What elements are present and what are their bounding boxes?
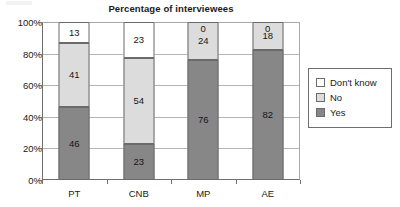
bar-value-label-zero: 0	[265, 23, 270, 34]
chart-container: Percentage of interviewees 0%20%40%60%80…	[0, 0, 400, 207]
bar-segment-yes[interactable]: 76	[188, 60, 219, 180]
bar-value-label: 24	[198, 36, 209, 46]
x-axis-tick-label: PT	[68, 188, 80, 199]
bar-value-label-zero: 0	[201, 23, 206, 34]
bar-value-label: 82	[262, 110, 273, 120]
x-axis-tick-mark	[107, 180, 108, 184]
x-axis-tick-mark	[171, 180, 172, 184]
y-axis: 0%20%40%60%80%100%	[0, 22, 42, 180]
stacked-bar[interactable]: 76240	[188, 22, 219, 180]
x-axis-tick-mark	[300, 180, 301, 184]
legend-swatch-icon	[316, 108, 325, 117]
bar-segment-no[interactable]: 41	[59, 43, 90, 108]
y-axis-tick-label: 0%	[6, 175, 42, 186]
bar-segment-don-t-know[interactable]: 13	[59, 22, 90, 43]
bar-group-pt[interactable]: 464113	[42, 22, 107, 180]
x-axis: PTCNBMPAE	[42, 180, 300, 207]
bar-segment-yes[interactable]: 46	[59, 107, 90, 180]
bar-value-label: 23	[133, 157, 144, 167]
bar-segment-no[interactable]: 54	[123, 58, 154, 143]
bar-value-label: 46	[69, 139, 80, 149]
legend-item-don-t-know[interactable]: Don't know	[316, 75, 391, 90]
y-axis-tick-label: 60%	[6, 80, 42, 91]
scan-artifact	[6, 1, 32, 5]
bar-group-mp[interactable]: 76240	[171, 22, 236, 180]
x-axis-tick-mark	[42, 180, 43, 184]
legend-item-label: No	[330, 93, 342, 103]
x-axis-tick-label: MP	[196, 188, 210, 199]
legend-item-no[interactable]: No	[316, 90, 391, 105]
bar-segment-don-t-know[interactable]: 23	[123, 22, 154, 58]
y-axis-tick-label: 20%	[6, 143, 42, 154]
x-axis-tick-label: CNB	[129, 188, 149, 199]
x-axis-tick-label: AE	[261, 188, 274, 199]
x-axis-tick-mark	[236, 180, 237, 184]
bar-group-cnb[interactable]: 235423	[107, 22, 172, 180]
legend-swatch-icon	[316, 93, 325, 102]
legend-item-label: Yes	[330, 108, 346, 118]
chart-legend: Don't knowNoYes	[308, 68, 392, 128]
bar-group-ae[interactable]: 82180	[236, 22, 301, 180]
legend-item-yes[interactable]: Yes	[316, 105, 391, 120]
bar-value-label: 41	[69, 70, 80, 80]
bar-value-label: 13	[69, 28, 80, 38]
bar-value-label: 54	[133, 96, 144, 106]
bar-segment-yes[interactable]: 82	[252, 50, 283, 180]
stacked-bar[interactable]: 235423	[123, 22, 154, 180]
y-axis-tick-label: 100%	[6, 17, 42, 28]
chart-title: Percentage of interviewees	[42, 3, 300, 14]
bar-value-label: 23	[133, 35, 144, 45]
y-axis-tick-label: 40%	[6, 111, 42, 122]
legend-item-label: Don't know	[330, 78, 377, 88]
stacked-bar[interactable]: 464113	[59, 22, 90, 180]
y-axis-tick-label: 80%	[6, 48, 42, 59]
bars-layer: 4641132354237624082180	[42, 22, 300, 180]
bar-segment-yes[interactable]: 23	[123, 144, 154, 180]
stacked-bar[interactable]: 82180	[252, 22, 283, 180]
legend-swatch-icon	[316, 78, 325, 87]
bar-value-label: 76	[198, 115, 209, 125]
